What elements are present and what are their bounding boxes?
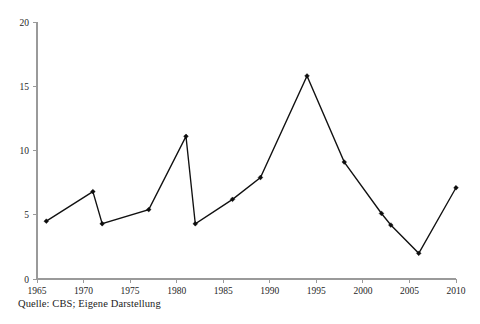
x-tick-label: 1995: [307, 286, 326, 296]
y-tick-label: 20: [20, 18, 30, 28]
x-tick-label: 2010: [447, 286, 466, 296]
y-tick-label: 10: [20, 146, 30, 156]
data-point-marker: 1994: 15.8: [305, 74, 310, 79]
x-tick-label: 1985: [214, 286, 233, 296]
x-tick-label: 1975: [121, 286, 140, 296]
y-axis: 05101520: [20, 18, 38, 285]
y-tick-label: 5: [24, 210, 29, 220]
y-tick-label: 0: [24, 275, 29, 285]
source-caption: Quelle: CBS; Eigene Darstellung: [18, 298, 161, 309]
x-tick-label: 1980: [167, 286, 186, 296]
y-tick-label: 15: [20, 82, 30, 92]
x-tick-label: 1965: [28, 286, 47, 296]
x-axis: 1965197019751980198519901995200020052010: [28, 279, 466, 296]
x-tick-label: 1990: [260, 286, 279, 296]
chart-figure: 05101520 1965197019751980198519901995200…: [0, 0, 480, 324]
x-tick-label: 2005: [400, 286, 419, 296]
data-point-marker: 1981: 11.1: [184, 134, 189, 139]
series-line: [46, 76, 456, 253]
data-series: 1966: 4.51971: 6.81972: 4.31977: 5.41981…: [44, 74, 458, 256]
data-point-marker: 1977: 5.4: [146, 207, 151, 212]
line-chart: 05101520 1965197019751980198519901995200…: [0, 0, 480, 324]
x-tick-label: 2000: [353, 286, 372, 296]
x-tick-label: 1970: [74, 286, 93, 296]
data-point-marker: 1972: 4.3: [100, 221, 105, 226]
